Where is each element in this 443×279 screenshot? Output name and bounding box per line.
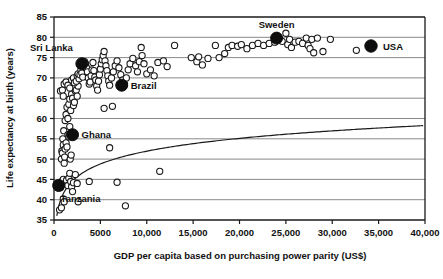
x-tick-label: 5000 (90, 227, 111, 238)
highlight-point-tanzania (53, 179, 65, 191)
x-tick-label: 0 (51, 227, 56, 238)
data-point (205, 55, 211, 61)
y-tick-label: 60 (36, 113, 47, 124)
data-point (101, 105, 107, 111)
data-point (171, 42, 177, 48)
highlight-point-sri-lanka (76, 58, 88, 70)
data-point (216, 55, 222, 61)
data-point (110, 69, 116, 75)
data-point (67, 85, 73, 91)
data-point (157, 168, 163, 174)
data-point (199, 62, 205, 68)
data-point (109, 103, 115, 109)
data-point (320, 48, 326, 54)
data-point (314, 35, 320, 41)
data-point (139, 52, 145, 58)
x-tick-label: 20,000 (225, 227, 254, 238)
highlight-point-sweden (271, 32, 283, 44)
data-point (327, 36, 333, 42)
data-point (91, 67, 97, 73)
x-axis-title: GDP per capita based on purchasing power… (114, 250, 367, 261)
y-tick-label: 40 (36, 194, 47, 205)
y-tick-label: 55 (36, 133, 47, 144)
data-point (95, 78, 101, 84)
legend: USA (365, 40, 403, 52)
data-point (125, 67, 131, 73)
data-point (134, 69, 140, 75)
data-point (94, 87, 100, 93)
data-point (114, 58, 120, 64)
data-point (283, 30, 289, 36)
y-tick-label: 65 (36, 93, 47, 104)
data-point (212, 42, 218, 48)
data-point (147, 67, 153, 73)
x-tick-label: 10,000 (132, 227, 161, 238)
highlight-label-ghana: Ghana (82, 129, 112, 140)
y-tick-label: 85 (36, 11, 47, 22)
data-point (222, 50, 228, 56)
data-point (64, 144, 70, 150)
data-point (101, 48, 107, 54)
data-point (188, 55, 194, 61)
highlight-label-brazil: Brazil (131, 80, 157, 91)
y-tick-label: 45 (36, 174, 47, 185)
data-point (74, 93, 80, 99)
data-point (160, 58, 166, 64)
highlight-label-tanzania: Tanzania (61, 193, 102, 204)
highlight-point-ghana (67, 129, 79, 141)
data-point (61, 160, 67, 166)
highlight-label-sweden: Sweden (259, 19, 295, 30)
data-point (71, 99, 77, 105)
data-point (141, 61, 147, 67)
data-point (151, 73, 157, 79)
data-point (68, 152, 74, 158)
y-axis-title: Life expectancy at birth (years) (4, 48, 15, 188)
y-tick-label: 70 (36, 72, 47, 83)
data-point (90, 59, 96, 65)
legend-usa-label: USA (383, 41, 403, 52)
data-point (114, 179, 120, 185)
scatter-chart: 3540455055606570758085 0500010,00015,000… (0, 0, 443, 279)
x-tick-label: 30,000 (318, 227, 347, 238)
highlight-label-sri-lanka: Sri Lanka (30, 42, 73, 53)
legend-usa-marker (365, 40, 377, 52)
x-tick-label: 25,000 (271, 227, 300, 238)
data-point (58, 205, 64, 211)
data-point (108, 75, 114, 81)
data-point (311, 50, 317, 56)
data-point (86, 178, 92, 184)
data-point (138, 44, 144, 50)
data-point (59, 87, 65, 93)
data-point (196, 54, 202, 60)
x-tick-label: 35,000 (364, 227, 393, 238)
y-tick-label: 50 (36, 154, 47, 165)
x-axis-ticks: 0500010,00015,00020,00025,00030,00035,00… (51, 220, 439, 238)
data-point (116, 65, 122, 71)
data-point (164, 63, 170, 69)
data-point (107, 82, 113, 88)
data-point (65, 115, 71, 121)
data-point (238, 42, 244, 48)
chart-canvas: 3540455055606570758085 0500010,00015,000… (0, 0, 443, 279)
data-point (60, 93, 66, 99)
y-tick-label: 75 (36, 52, 47, 63)
data-point (72, 171, 78, 177)
data-point (74, 180, 80, 186)
data-point (353, 47, 359, 53)
highlight-point-brazil (116, 79, 128, 91)
y-tick-label: 35 (36, 214, 47, 225)
x-tick-label: 15,000 (179, 227, 208, 238)
data-point (122, 203, 128, 209)
x-tick-label: 40,000 (410, 227, 439, 238)
data-point (107, 145, 113, 151)
data-point (130, 55, 136, 61)
